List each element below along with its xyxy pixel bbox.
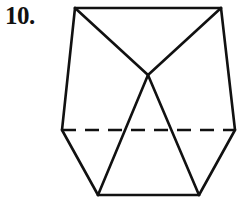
edge-apex-bottom_right — [148, 75, 199, 195]
edge-mid_left-bottom_left — [62, 130, 98, 195]
edge-top_right-apex — [148, 8, 221, 75]
solid-edges — [62, 8, 235, 195]
edge-mid_right-bottom_right — [199, 130, 235, 195]
edge-top_right-mid_right — [221, 8, 235, 130]
geometric-figure — [0, 0, 248, 200]
edge-top_left-apex — [75, 8, 148, 75]
edge-apex-bottom_left — [98, 75, 148, 195]
edge-top_left-mid_left — [62, 8, 75, 130]
